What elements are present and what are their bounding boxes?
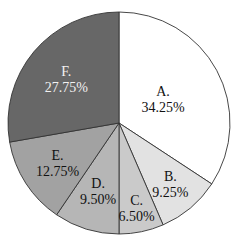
pie-slices [8,12,230,234]
pie-chart: A.34.25%B.9.25%C.6.50%D.9.50%E.12.75%F.2… [0,0,231,242]
